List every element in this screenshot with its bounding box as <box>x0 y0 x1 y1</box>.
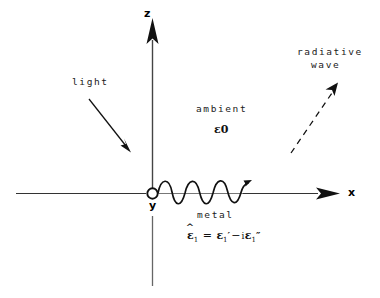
x-axis-arrowhead <box>316 188 340 200</box>
radiative-arrow-shaft <box>291 90 334 153</box>
radiative-wave-label-line2: wave <box>311 60 340 71</box>
z-axis-label: z <box>144 8 150 21</box>
diagram-vector-layer <box>0 0 380 298</box>
equation-equals: = <box>202 229 213 242</box>
equation-lhs-symbol: ε <box>187 229 194 242</box>
metal-permittivity-equation: ε1 = ε1′−iε1″ <box>187 230 260 244</box>
ambient-label: ambient <box>196 104 247 115</box>
radiative-wave-label-line1: radiative <box>297 47 363 58</box>
physics-diagram: z x y light ambient ε0 metal radiative w… <box>0 0 380 298</box>
light-label: light <box>72 77 109 88</box>
light-arrow-shaft <box>89 99 126 146</box>
metal-label: metal <box>197 210 234 221</box>
equation-term2-prime: ″ <box>256 230 260 241</box>
surface-plasmon-wave <box>158 181 248 204</box>
y-axis-label: y <box>149 200 156 213</box>
equation-lhs-subscript: 1 <box>194 236 198 244</box>
origin-circle <box>147 188 157 198</box>
equation-operator: − <box>230 229 241 242</box>
ambient-permittivity-label: ε0 <box>214 124 228 137</box>
x-axis-label: x <box>348 187 355 200</box>
